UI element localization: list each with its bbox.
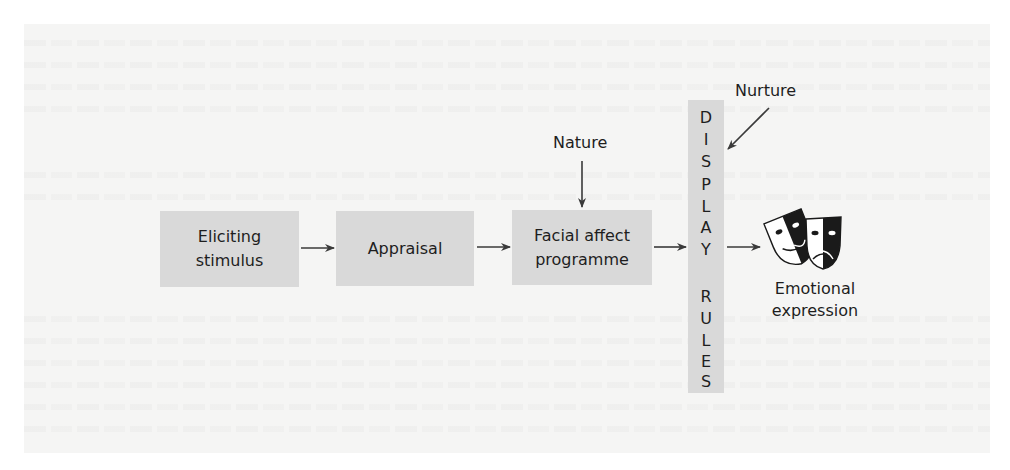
theatre-masks-icon: [764, 209, 841, 271]
diagram-arrows: [0, 0, 1010, 470]
arrow-nurture-diagonal: [728, 108, 769, 149]
